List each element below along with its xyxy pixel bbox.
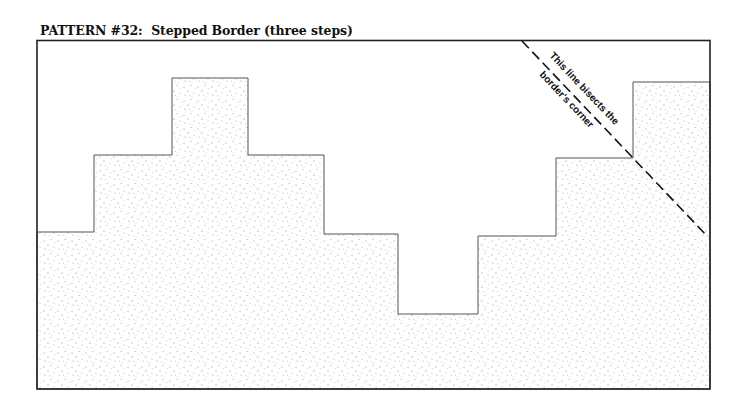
stepped-border-diagram: This line bisects the border's corner <box>0 0 745 404</box>
stepped-fill-region <box>37 78 710 389</box>
